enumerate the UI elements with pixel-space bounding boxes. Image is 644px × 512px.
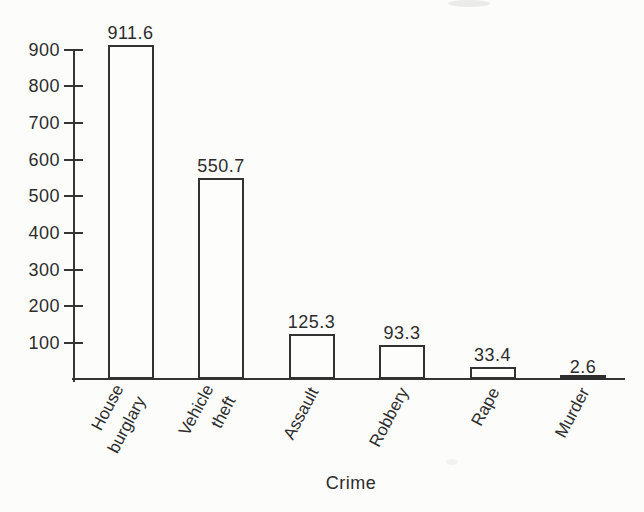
y-axis-tick — [64, 269, 83, 271]
x-category-label: House burglary — [37, 380, 152, 512]
scan-artifact — [448, 0, 490, 7]
bar — [379, 345, 425, 379]
y-axis-tick — [64, 195, 83, 197]
y-axis-tick — [64, 122, 83, 124]
y-tick-label: 700 — [0, 112, 60, 134]
bar-value-label: 125.3 — [267, 312, 357, 332]
bar-value-label: 93.3 — [357, 323, 447, 343]
x-axis-line — [72, 378, 626, 380]
y-axis-tick — [64, 342, 83, 344]
bar — [108, 45, 154, 379]
bar-value-label: 33.4 — [448, 345, 538, 365]
bar — [289, 334, 335, 380]
bar-value-label: 550.7 — [176, 156, 266, 176]
y-axis-tick — [64, 305, 83, 307]
y-axis-line — [73, 49, 75, 382]
scan-artifact — [446, 459, 458, 465]
y-tick-label: 200 — [0, 295, 60, 317]
y-axis-tick — [64, 232, 83, 234]
y-axis-tick — [64, 159, 83, 161]
y-tick-label: 500 — [0, 185, 60, 207]
crime-bar-chart: 900800700600500400300200100911.6House bu… — [0, 0, 644, 512]
y-tick-label: 900 — [0, 39, 60, 61]
y-axis-tick — [64, 49, 83, 51]
bar-value-label: 911.6 — [86, 23, 176, 43]
y-tick-label: 100 — [0, 332, 60, 354]
y-tick-label: 300 — [0, 259, 60, 281]
bar-value-label: 2.6 — [538, 357, 628, 377]
bar — [470, 367, 516, 379]
y-axis-tick — [64, 85, 83, 87]
y-tick-label: 400 — [0, 222, 60, 244]
x-category-label: Murder — [504, 383, 596, 512]
y-tick-label: 800 — [0, 75, 60, 97]
y-tick-label: 600 — [0, 149, 60, 171]
x-axis-title: Crime — [271, 473, 431, 494]
bar — [198, 178, 244, 380]
